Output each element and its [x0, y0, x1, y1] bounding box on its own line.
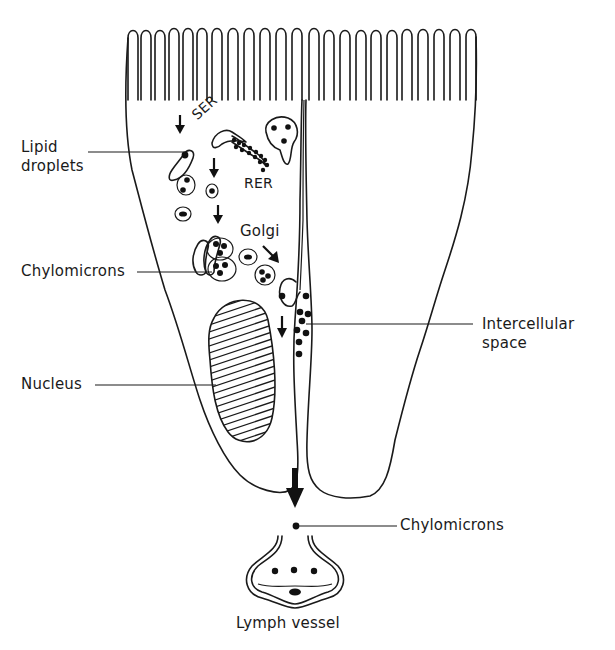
arrow-down-icon: [175, 115, 185, 134]
arrow-down-icon: [277, 316, 287, 338]
label-lipid-line1: Lipid: [21, 138, 84, 157]
right-epithelial-cell: [306, 37, 477, 498]
lipid-droplet: [182, 152, 189, 159]
small-vesicles: [175, 175, 218, 221]
golgi-apparatus: [193, 237, 275, 285]
label-lipid-line2: droplets: [21, 157, 84, 176]
smooth-endoplasmic-reticulum: [212, 130, 246, 147]
arrow-down-icon: [209, 158, 219, 178]
nucleus: [200, 270, 290, 475]
lymph-chylomicron-dot: [293, 523, 300, 530]
leader-lines: [88, 152, 473, 526]
label-rer: RER: [244, 174, 273, 193]
label-lymph-vessel: Lymph vessel: [236, 614, 340, 633]
label-lipid-droplets: Lipid droplets: [21, 138, 84, 176]
arrow-diagonal-icon: [263, 246, 279, 263]
label-chylomicrons-lymph: Chylomicrons: [400, 516, 504, 535]
label-chylomicrons-cell: Chylomicrons: [21, 262, 125, 281]
label-intercellular-line1: Intercellular: [482, 315, 574, 334]
label-intercellular-line2: space: [482, 334, 574, 353]
label-intercellular-space: Intercellular space: [482, 315, 574, 353]
label-golgi: Golgi: [240, 222, 280, 241]
flow-arrows: [175, 115, 304, 508]
arrow-down-icon: [213, 205, 223, 224]
arrow-down-large-icon: [286, 468, 304, 508]
lymph-vessel: [247, 536, 344, 608]
microvilli-brush-border: [128, 29, 476, 101]
label-nucleus: Nucleus: [21, 375, 82, 394]
